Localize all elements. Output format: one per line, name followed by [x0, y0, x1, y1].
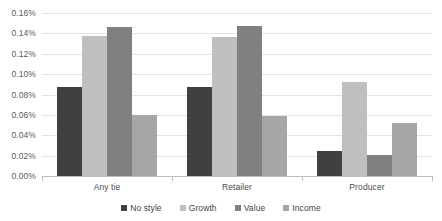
bar — [367, 155, 392, 176]
legend-label: Growth — [189, 204, 217, 213]
legend-label: No style — [130, 204, 162, 213]
bar — [317, 151, 342, 176]
legend-swatch-icon — [235, 205, 241, 211]
y-tick-label: 0.14% — [11, 29, 36, 38]
bar — [392, 123, 417, 176]
bar — [107, 27, 132, 176]
y-tick-label: 0.02% — [11, 151, 36, 160]
y-tick-label: 0.04% — [11, 131, 36, 140]
y-tick-label: 0.12% — [11, 50, 36, 59]
y-axis: 0.00%0.02%0.04%0.06%0.08%0.10%0.12%0.14%… — [0, 0, 42, 181]
bar — [212, 37, 237, 176]
legend-item[interactable]: No style — [121, 204, 162, 213]
bar — [342, 82, 367, 176]
legend-item[interactable]: Income — [283, 204, 320, 213]
y-tick-label: 0.10% — [11, 70, 36, 79]
bar — [57, 87, 82, 176]
legend-label: Value — [244, 204, 266, 213]
x-axis-category-label: Producer — [349, 182, 384, 192]
bar — [262, 116, 287, 176]
legend-swatch-icon — [121, 205, 127, 211]
bar — [82, 36, 107, 176]
bar — [187, 87, 212, 176]
legend-swatch-icon — [283, 205, 289, 211]
x-axis-tick — [42, 176, 43, 181]
legend-swatch-icon — [180, 205, 186, 211]
bars-layer — [42, 0, 432, 176]
bar — [132, 115, 157, 176]
chart-legend: No styleGrowthValueIncome — [0, 200, 442, 216]
y-tick-label: 0.00% — [11, 172, 36, 181]
legend-label: Income — [292, 204, 320, 213]
x-axis-tick — [172, 176, 173, 181]
y-tick-label: 0.16% — [11, 9, 36, 18]
x-axis-tick — [432, 176, 433, 181]
legend-item[interactable]: Value — [235, 204, 266, 213]
legend-item[interactable]: Growth — [180, 204, 217, 213]
y-tick-label: 0.08% — [11, 90, 36, 99]
x-axis-category-label: Retailer — [222, 182, 252, 192]
x-axis-category-label: Any tie — [94, 182, 121, 192]
bar — [237, 26, 262, 176]
bar-chart: 0.00%0.02%0.04%0.06%0.08%0.10%0.12%0.14%… — [0, 0, 442, 221]
x-axis-tick — [302, 176, 303, 181]
x-axis-line — [42, 176, 432, 177]
y-tick-label: 0.06% — [11, 111, 36, 120]
